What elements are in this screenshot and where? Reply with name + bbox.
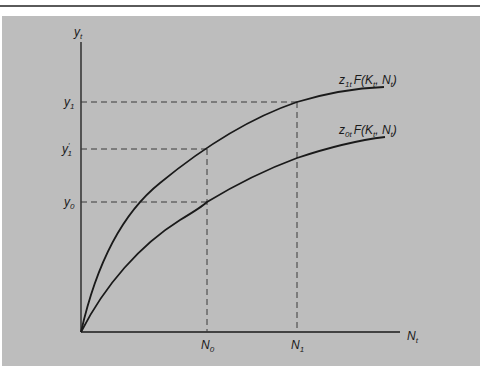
- tick-label-N0: N0: [201, 338, 215, 354]
- tick-label-y0: y0: [63, 195, 75, 211]
- x-axis-label: Nt: [407, 329, 419, 345]
- tick-label-y1prime: y′1: [61, 141, 72, 158]
- y-axis-label: yt: [73, 25, 83, 41]
- curve-lower: [81, 137, 385, 332]
- curve-label-upper: z1tF(Kt, Nt): [338, 73, 397, 89]
- production-function-diagram: yt Nt y1 y′1 y0 N0 N1 z1tF(Kt, Nt) z0tF(…: [0, 0, 490, 373]
- tick-label-y1: y1: [63, 95, 74, 111]
- curve-label-lower: z0tF(Kt, Nt): [338, 123, 397, 139]
- tick-label-N1: N1: [291, 338, 304, 354]
